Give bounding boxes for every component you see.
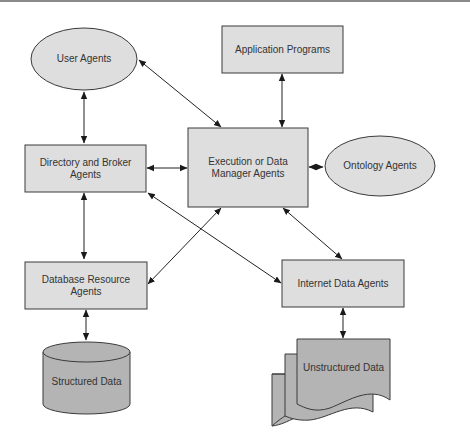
label-execution-manager: Execution or Data Manager Agents bbox=[188, 155, 308, 181]
edge-user-execution bbox=[139, 60, 221, 127]
label-unstructured-data: Unstructured Data bbox=[297, 356, 390, 380]
label-database-resource: Database Resource Agents bbox=[25, 273, 147, 299]
label-user-agents: User Agents bbox=[31, 47, 137, 71]
label-structured-data: Structured Data bbox=[43, 370, 130, 394]
label-application-programs: Application Programs bbox=[222, 38, 343, 62]
edge-execution-internet bbox=[283, 208, 342, 259]
label-internet-data: Internet Data Agents bbox=[282, 272, 404, 296]
node-unstructured-data bbox=[272, 339, 390, 426]
label-ontology-agents: Ontology Agents bbox=[325, 154, 435, 178]
label-directory-broker: Directory and Broker Agents bbox=[25, 156, 146, 182]
edge-execution-database bbox=[148, 208, 221, 284]
